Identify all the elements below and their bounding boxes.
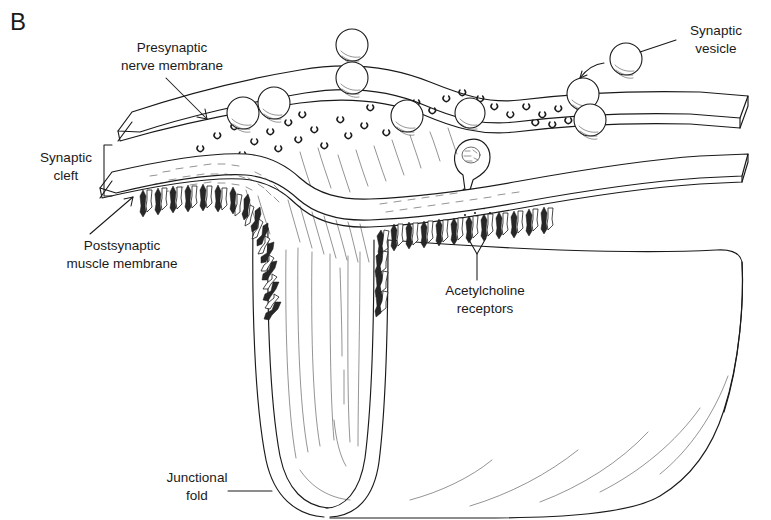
synaptic-vesicle-leader [640, 40, 676, 52]
figure-root: B [0, 0, 771, 520]
acetylcholine-receptors-left [140, 184, 281, 320]
synaptic-vesicle-label-line1: Synaptic [690, 23, 742, 38]
synaptic-cleft-label-line2: cleft [54, 168, 79, 183]
postsynaptic-leader [90, 197, 133, 234]
postsynaptic-label-line2: muscle membrane [66, 256, 177, 271]
label-junctional-fold: Junctional fold [167, 470, 228, 503]
nmj-diagram: B [0, 0, 771, 520]
vesicle [336, 62, 368, 97]
presynaptic-label-line1: Presynaptic [137, 40, 208, 55]
acetylcholine-label-line2: receptors [457, 301, 514, 316]
presynaptic-label-line2: nerve membrane [121, 58, 223, 73]
acetylcholine-label-line1: Acetylcholine [445, 283, 525, 298]
label-synaptic-vesicle: Synaptic vesicle [690, 23, 742, 56]
acetylcholine-leader [468, 238, 486, 280]
vesicle [455, 98, 485, 129]
junctional-fold-label-line2: fold [186, 488, 208, 503]
junctional-fold-label-line1: Junctional [167, 470, 228, 485]
label-postsynaptic-muscle-membrane: Postsynaptic muscle membrane [66, 238, 177, 271]
label-acetylcholine-receptors: Acetylcholine receptors [445, 283, 525, 316]
panel-letter: B [10, 8, 26, 35]
label-presynaptic-nerve-membrane: Presynaptic nerve membrane [121, 40, 223, 73]
presynaptic-terminal [118, 66, 748, 141]
vesicle [336, 29, 368, 64]
vesicle [574, 104, 606, 139]
vesicle-labelled [610, 43, 642, 78]
postsynaptic-label-line1: Postsynaptic [84, 238, 161, 253]
vesicle [258, 87, 290, 122]
synaptic-vesicle-label-line2: vesicle [695, 41, 736, 56]
postsynaptic-membrane [100, 154, 748, 227]
terminal-interior-hatching [300, 128, 457, 192]
synaptic-cleft-label-line1: Synaptic [40, 150, 92, 165]
label-synaptic-cleft: Synaptic cleft [40, 150, 92, 183]
junctional-fold [253, 228, 743, 518]
vesicle [391, 100, 423, 135]
